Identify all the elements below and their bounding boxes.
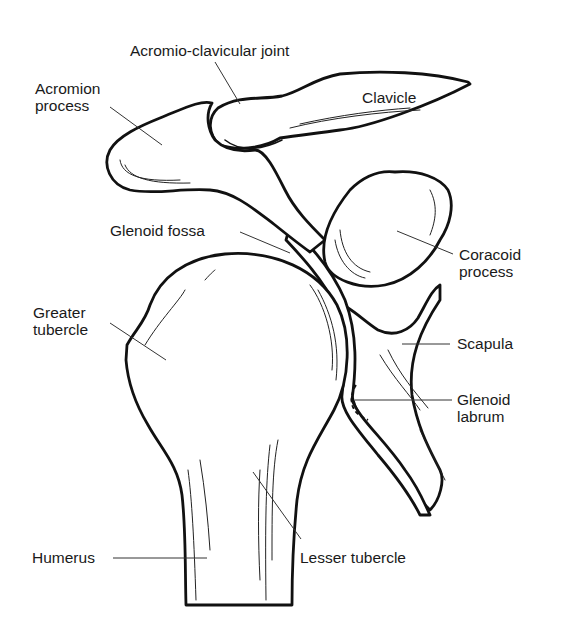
label-scapula: Scapula xyxy=(457,335,513,352)
leader-acromio-clavicular-joint xyxy=(215,62,240,104)
clavicle-shape xyxy=(210,72,470,148)
label-glenoid-labrum: Glenoid labrum xyxy=(457,391,510,425)
label-lesser-tubercle: Lesser tubercle xyxy=(300,549,406,566)
label-humerus: Humerus xyxy=(32,549,95,566)
label-acromio-clavicular-joint: Acromio-clavicular joint xyxy=(130,42,289,59)
label-coracoid-process: Coracoid process xyxy=(459,246,521,280)
shoulder-anatomy-diagram: Acromio-clavicular joint Acromion proces… xyxy=(0,0,567,637)
label-glenoid-fossa: Glenoid fossa xyxy=(110,222,205,239)
label-clavicle: Clavicle xyxy=(362,89,416,106)
label-greater-tubercle: Greater tubercle xyxy=(33,304,88,338)
label-acromion-process: Acromion process xyxy=(35,80,100,114)
leader-glenoid-fossa xyxy=(240,232,290,253)
